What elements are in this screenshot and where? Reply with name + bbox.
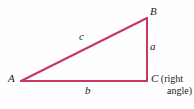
hypotenuse-c-line <box>21 18 147 81</box>
vertex-label-a: A <box>8 73 15 84</box>
side-label-b: b <box>85 85 91 96</box>
right-angle-annotation-line-2: angle) <box>151 85 194 97</box>
side-label-c: c <box>79 31 84 42</box>
annotation-word-angle: angle <box>167 85 189 96</box>
right-angle-annotation-line-1: C (right <box>151 73 194 85</box>
right-angle-annotation: C (right angle) <box>151 73 194 96</box>
annotation-paren-close: ) <box>189 85 192 96</box>
vertex-label-b: B <box>150 6 157 17</box>
annotation-word-right: right <box>164 73 183 84</box>
side-label-a: a <box>150 41 156 52</box>
right-triangle-figure: A B a b c C (right angle) <box>0 0 194 109</box>
